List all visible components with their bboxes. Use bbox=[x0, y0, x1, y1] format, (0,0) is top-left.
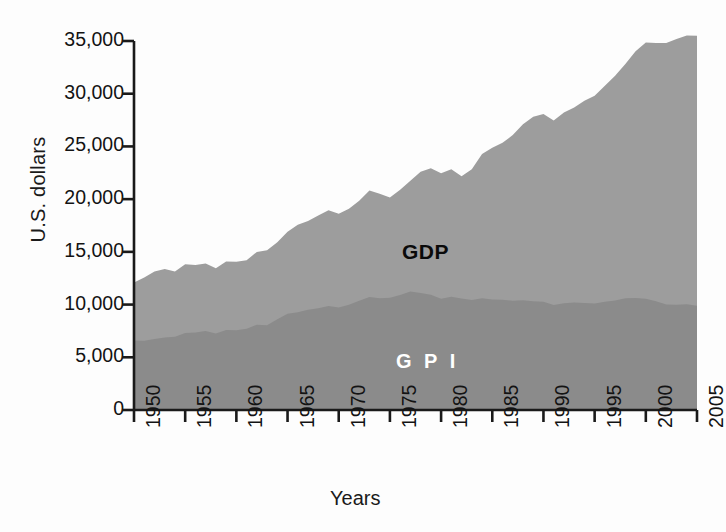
x-tick-label: 2005 bbox=[705, 385, 726, 428]
x-tick-label: 1950 bbox=[142, 385, 165, 428]
x-tick-label: 1955 bbox=[193, 385, 216, 428]
x-tick-label: 1970 bbox=[347, 385, 370, 428]
gpi-series-label: G P I bbox=[396, 350, 459, 373]
x-tick-label: 1985 bbox=[500, 385, 523, 428]
x-axis-title: Years bbox=[330, 487, 380, 510]
x-tick-label: 1960 bbox=[244, 385, 267, 428]
chart-figure: U.S. dollars 0 5,000 10,000 15,000 20,00… bbox=[0, 0, 726, 532]
x-tick-label: 1980 bbox=[449, 385, 472, 428]
y-axis-ticks bbox=[122, 41, 134, 410]
x-tick-label: 1995 bbox=[603, 385, 626, 428]
x-tick-label: 1965 bbox=[296, 385, 319, 428]
gdp-series-label: GDP bbox=[402, 240, 449, 264]
x-tick-label: 2000 bbox=[654, 385, 677, 428]
x-tick-label: 1975 bbox=[398, 385, 421, 428]
plot-area bbox=[0, 0, 726, 532]
x-tick-label: 1990 bbox=[551, 385, 574, 428]
